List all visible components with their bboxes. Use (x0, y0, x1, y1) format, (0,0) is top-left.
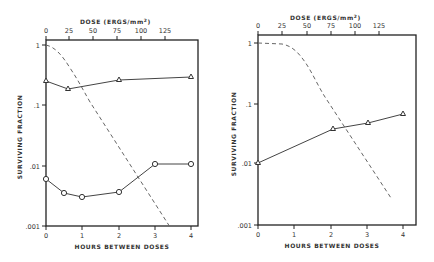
chart-figure: 0 25 50 75 100 125 DOSE (ERGS/mm2) 1 .1 … (0, 0, 434, 262)
left-x-tick-2: 2 (117, 232, 121, 240)
left-y-tick-0.1: .1 (34, 102, 40, 110)
right-panel: 0 25 50 75 100 125 DOSE (ERGS/mm2) 1 .1 … (230, 14, 416, 249)
right-x-axis-title: HOURS BETWEEN DOSES (285, 242, 380, 249)
right-top-axis-title: DOSE (ERGS/mm2) (290, 14, 361, 21)
right-y-tick-0.01: .01 (242, 160, 252, 168)
left-x-tick-0: 0 (44, 232, 48, 240)
right-dose-tick-50: 50 (303, 22, 311, 30)
left-x-tick-3: 3 (153, 232, 157, 240)
left-y-axis: 1 .1 .01 .001 SURVIVING FRACTION (16, 42, 46, 231)
right-dose-tick-125: 125 (373, 22, 385, 30)
left-dose-tick-25: 25 (65, 27, 73, 35)
left-y-axis-title: SURVIVING FRACTION (16, 95, 23, 180)
right-dose-tick-100: 100 (349, 22, 361, 30)
left-top-axis: 0 25 50 75 100 125 DOSE (ERGS/mm2) (44, 18, 171, 40)
left-dose-tick-50: 50 (89, 27, 97, 35)
left-dose-tick-100: 100 (135, 27, 147, 35)
right-x-tick-0: 0 (256, 231, 260, 239)
right-dose-tick-75: 75 (327, 22, 335, 30)
left-x-tick-1: 1 (80, 232, 84, 240)
right-top-axis: 0 25 50 75 100 125 DOSE (ERGS/mm2) (256, 14, 385, 35)
left-panel: 0 25 50 75 100 125 DOSE (ERGS/mm2) 1 .1 … (16, 18, 198, 250)
left-dose-tick-75: 75 (113, 27, 121, 35)
right-x-tick-2: 2 (329, 231, 333, 239)
right-x-tick-3: 3 (365, 231, 369, 239)
right-x-tick-1: 1 (292, 231, 296, 239)
right-plot-frame (258, 35, 416, 225)
left-x-axis-title: HOURS BETWEEN DOSES (75, 243, 170, 250)
right-y-tick-0.001: .001 (238, 222, 252, 230)
right-dose-curve (258, 43, 391, 198)
right-y-tick-0.1: .1 (246, 101, 252, 109)
left-y-tick-0.01: .01 (30, 163, 40, 171)
left-x-tick-4: 4 (189, 232, 193, 240)
left-y-tick-0.001: .001 (26, 223, 40, 231)
right-y-tick-1: 1 (248, 40, 252, 48)
left-y-tick-1: 1 (36, 42, 40, 50)
right-y-axis: 1 .1 .01 .001 SURVIVING FRACTION (230, 40, 258, 230)
right-y-axis-title: SURVIVING FRACTION (230, 92, 237, 177)
right-x-tick-4: 4 (401, 231, 405, 239)
left-dose-tick-0: 0 (44, 27, 48, 35)
left-plot-frame (46, 40, 198, 226)
right-x-axis: 0 1 2 3 4 HOURS BETWEEN DOSES (256, 225, 405, 249)
right-triangle-series (258, 114, 403, 163)
right-dose-tick-25: 25 (278, 22, 286, 30)
left-top-axis-title: DOSE (ERGS/mm2) (80, 18, 151, 25)
right-dose-tick-0: 0 (256, 22, 260, 30)
left-x-axis: 0 1 2 3 4 HOURS BETWEEN DOSES (44, 226, 193, 250)
left-circle-markers (43, 161, 193, 199)
left-dose-tick-125: 125 (159, 27, 171, 35)
left-dose-curve (46, 45, 170, 227)
